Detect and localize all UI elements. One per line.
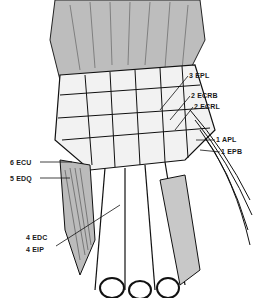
wrist-anatomy-illustration	[0, 0, 258, 298]
label-edq: 5 EDQ	[10, 175, 32, 182]
label-epb: 1 EPB	[221, 148, 242, 155]
label-ecu: 6 ECU	[10, 159, 32, 166]
label-ecrb: 2 ECRB	[191, 92, 218, 99]
label-epl: 3 EPL	[189, 72, 209, 79]
label-edc: 4 EDC	[26, 234, 48, 241]
label-ecrl: 2 ECRL	[194, 103, 220, 110]
label-apl: 1 APL	[216, 136, 237, 143]
label-eip: 4 EIP	[26, 246, 44, 253]
